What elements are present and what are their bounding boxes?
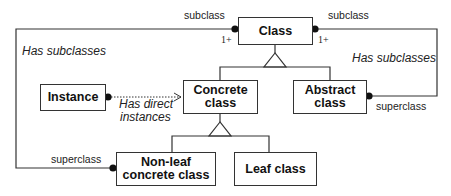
class-box[interactable]: Class	[238, 17, 313, 45]
right-has-subclasses-label: Has subclasses	[352, 52, 436, 65]
instance-label: Instance	[48, 91, 99, 104]
abstract-class-box[interactable]: Abstract class	[293, 80, 367, 114]
leaf-class-label: Leaf class	[245, 163, 305, 176]
abstract-class-label-line2: class	[314, 97, 345, 110]
generalization-triangle-bottom	[209, 122, 231, 136]
has-direct-instances-label-line2: instances	[120, 111, 171, 124]
left-multiplicity-label: 1+	[221, 34, 232, 45]
left-superclass-role-label: superclass	[51, 153, 101, 165]
nonleaf-concrete-class-box[interactable]: Non-leaf concrete class	[116, 152, 216, 186]
right-multiplicity-label: 1+	[318, 34, 329, 45]
class-hierarchy-diagram: Class Concrete class Abstract class Inst…	[0, 0, 451, 196]
right-subclass-role-label: subclass	[328, 9, 369, 21]
left-subclass-role-label: subclass	[184, 9, 225, 21]
left-has-subclasses-label: Has subclasses	[22, 45, 106, 58]
instance-box[interactable]: Instance	[40, 84, 106, 111]
concrete-class-label-line2: class	[205, 97, 236, 110]
leaf-class-box[interactable]: Leaf class	[234, 152, 317, 186]
generalization-triangle-top	[264, 53, 286, 67]
nonleaf-label-line2: concrete class	[123, 169, 210, 182]
right-superclass-role-label: superclass	[376, 100, 426, 112]
class-label: Class	[259, 25, 292, 38]
concrete-class-box[interactable]: Concrete class	[183, 80, 258, 114]
